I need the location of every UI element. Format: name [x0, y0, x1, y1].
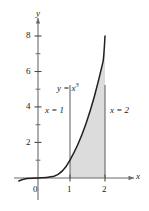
y-tick-label-4: 4 [26, 102, 31, 111]
x-axis-arrowhead [129, 176, 135, 180]
shaded-region [70, 36, 105, 178]
x-tick-label-2: 2 [102, 185, 107, 194]
y-tick-label-2: 2 [26, 138, 31, 147]
x-axis-label: x [136, 172, 140, 181]
curve-equation-exponent: 3 [76, 81, 79, 88]
curve-equation-label: y = x3 [57, 84, 79, 93]
right-bound-label: x = 2 [110, 106, 129, 115]
y-axis-arrowhead [36, 18, 40, 24]
x-tick-label-1: 1 [67, 185, 72, 194]
y-tick-label-6: 6 [26, 67, 31, 76]
curve-equation-lead: y = x [57, 83, 76, 93]
y-tick-label-8: 8 [26, 31, 31, 40]
y-axis-label: y [36, 9, 40, 18]
left-bound-label: x = 1 [45, 106, 64, 115]
x-tick-label-0: 0 [33, 185, 38, 194]
graph-figure: y x 2 4 6 8 0 1 2 y = x3 x = 1 x = 2 [0, 0, 149, 211]
